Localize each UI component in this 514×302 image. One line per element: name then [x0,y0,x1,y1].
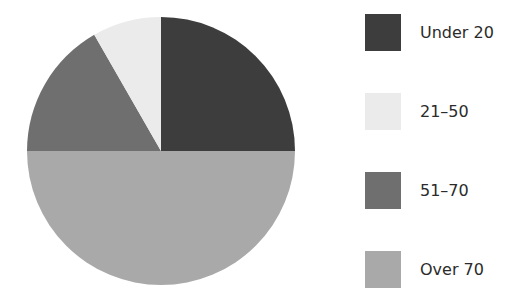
slice-under-20 [161,17,295,151]
legend-label: 51–70 [420,181,469,200]
legend-item-21-50: 21–50 [365,93,505,130]
legend-swatch [365,14,401,51]
legend-swatch [365,251,401,288]
legend-item-over-70: Over 70 [365,251,505,288]
legend-swatch [365,93,401,130]
legend-swatch [365,172,401,209]
legend-item-51-70: 51–70 [365,172,505,209]
slice-over-70 [27,151,295,285]
legend-label: Under 20 [420,23,494,42]
legend-label: Over 70 [420,260,484,279]
legend-label: 21–50 [420,102,469,121]
pie-chart [0,0,330,302]
legend-item-under-20: Under 20 [365,14,505,51]
